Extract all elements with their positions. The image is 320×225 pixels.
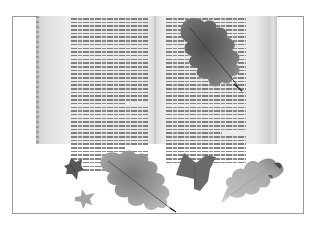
text-line [71,121,148,123]
oak-leaf-on-book-icon [172,16,252,94]
text-line [71,44,148,46]
text-line [166,118,246,120]
text-line [71,51,148,53]
left-page [36,16,155,144]
text-line [71,140,148,142]
text-line [71,48,148,50]
text-line [166,136,246,138]
text-line [71,62,148,64]
text-line [71,125,148,127]
large-oak-leaf-icon [98,149,180,213]
text-line [166,95,246,97]
text-line [71,18,148,20]
text-line [71,22,148,24]
text-line [166,99,246,101]
text-line [71,84,148,86]
small-ivy-leaf-light-icon [73,187,97,209]
text-line [71,70,148,72]
text-line [166,140,246,142]
oak-leaf-light-icon [218,155,286,205]
text-line [71,88,148,90]
text-line [71,114,148,116]
book-spine [154,16,156,144]
text-line [71,33,148,35]
text-line [71,55,148,57]
text-line [71,99,148,101]
text-line [71,107,148,109]
small-ivy-leaf-dark-icon [62,156,86,182]
text-line [71,66,148,68]
text-line [71,143,148,145]
text-line [166,129,246,131]
page-edge-texture [36,16,39,144]
text-line [71,132,148,134]
text-line [166,125,246,127]
text-line [166,107,246,109]
text-line [71,118,148,120]
text-line [71,103,125,105]
text-line [166,114,246,116]
text-line [71,129,148,131]
text-line [71,77,148,79]
text-line [71,92,148,94]
text-line [71,29,148,31]
text-line [166,103,246,105]
text-line [71,36,148,38]
text-line [166,121,246,123]
text-line [166,132,222,134]
text-line [166,143,246,145]
text-line [71,73,148,75]
text-line [71,25,148,27]
text-line [71,40,148,42]
text-line [71,110,148,112]
text-line [166,110,246,112]
text-line [71,95,148,97]
text-line [71,59,148,61]
text-line [71,136,148,138]
ivy-leaf-dark-icon [174,151,218,193]
text-line [71,81,148,83]
